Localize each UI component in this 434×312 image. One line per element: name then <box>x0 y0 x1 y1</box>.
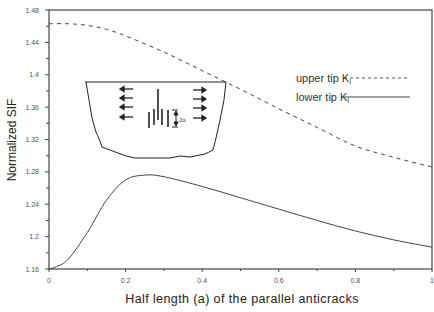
plot-frame <box>49 10 432 269</box>
x-axis-ticks: 00.20.40.60.81 <box>47 269 434 284</box>
y-tick-label: 1.28 <box>25 168 39 175</box>
y-tick-label: 1.48 <box>25 7 39 14</box>
right-arrows-icon <box>193 88 206 121</box>
y-tick-label: 1.32 <box>25 136 39 143</box>
y-tick-label: 1.16 <box>25 266 39 273</box>
left-arrows-icon <box>120 87 133 120</box>
x-axis-label: Half length (a) of the parallel anticrac… <box>125 292 359 306</box>
y-axis-label: Normalized SIF <box>5 99 19 182</box>
y-tick-label: 1.4 <box>29 71 39 78</box>
inset-schematic: 2a <box>85 82 226 158</box>
series-upper-tip <box>49 24 432 167</box>
x-tick-label: 0 <box>47 277 51 284</box>
x-tick-label: 1 <box>430 277 434 284</box>
x-tick-label: 0.4 <box>197 277 207 284</box>
x-tick-label: 0.6 <box>274 277 284 284</box>
y-tick-label: 1.44 <box>25 39 39 46</box>
x-tick-label: 0.8 <box>351 277 361 284</box>
legend: upper tip KI lower tip KI <box>296 72 410 104</box>
cracks-icon <box>149 89 168 128</box>
x-tick-label: 0.2 <box>121 277 131 284</box>
y-tick-label: 1.2 <box>29 233 39 240</box>
legend-upper-label: upper tip KI <box>296 72 351 85</box>
series-lower-tip <box>49 175 432 269</box>
y-tick-label: 1.36 <box>25 104 39 111</box>
dimension-2a <box>172 110 178 127</box>
y-tick-label: 1.24 <box>25 201 39 208</box>
legend-lower-label: lower tip KI <box>296 91 349 104</box>
chart: 1.161.21.241.281.321.361.41.441.48 00.20… <box>0 0 434 312</box>
inset-label-2a: 2a <box>179 116 187 124</box>
y-axis-ticks: 1.161.21.241.281.321.361.41.441.48 <box>25 7 49 273</box>
